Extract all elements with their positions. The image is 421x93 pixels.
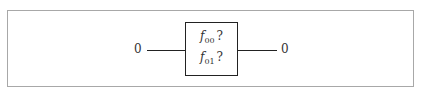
output-wire xyxy=(238,50,277,51)
input-wire xyxy=(147,50,185,51)
function-box: f00? f01? xyxy=(185,22,238,76)
input-label: 0 xyxy=(134,42,142,56)
function-line-00: f00? xyxy=(200,28,223,49)
output-label: 0 xyxy=(281,42,289,56)
function-line-01: f01? xyxy=(200,49,223,70)
